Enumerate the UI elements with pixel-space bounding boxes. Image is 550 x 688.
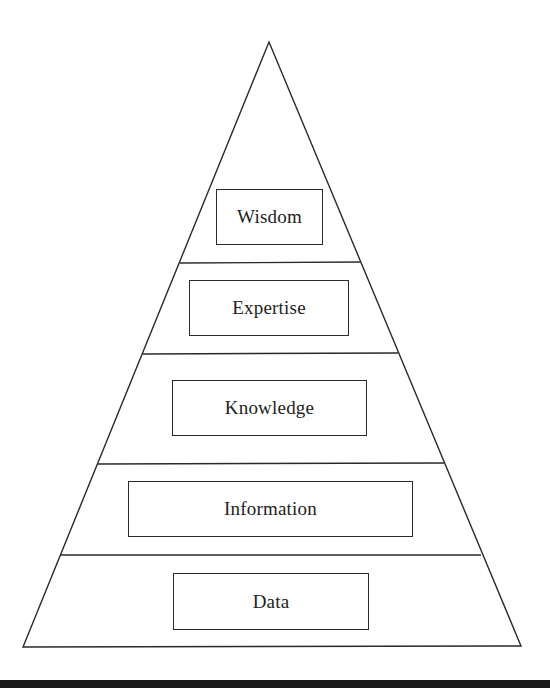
level-data: Data — [173, 573, 369, 630]
divider-expertise-knowledge — [143, 353, 398, 354]
pyramid-outline — [23, 42, 521, 647]
level-wisdom-label: Wisdom — [237, 206, 302, 228]
level-data-label: Data — [253, 591, 290, 613]
divider-knowledge-information — [98, 463, 444, 464]
level-expertise: Expertise — [189, 280, 349, 336]
level-information-label: Information — [224, 498, 317, 520]
level-expertise-label: Expertise — [232, 297, 306, 319]
level-wisdom: Wisdom — [216, 189, 323, 245]
level-knowledge-label: Knowledge — [225, 397, 314, 419]
bottom-rule — [0, 680, 550, 688]
divider-wisdom-expertise — [180, 262, 361, 263]
level-knowledge: Knowledge — [172, 380, 367, 436]
level-information: Information — [128, 481, 413, 537]
